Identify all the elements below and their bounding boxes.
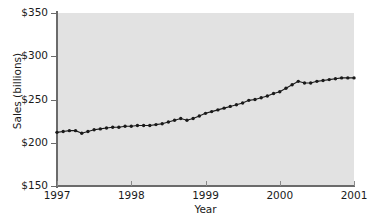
y-tick-label: $250 (2, 94, 48, 105)
x-tick (206, 181, 207, 186)
x-tick-label: 1997 (37, 189, 77, 201)
x-tick-label: 2001 (334, 189, 374, 201)
y-tick (51, 13, 57, 14)
x-tick (280, 181, 281, 186)
x-tick (131, 181, 132, 186)
y-tick-label: $300 (2, 50, 48, 61)
x-tick (57, 181, 58, 186)
x-tick-label: 2000 (260, 189, 300, 201)
x-tick (354, 181, 355, 186)
x-axis-title: Year (57, 203, 354, 215)
x-tick-label: 1998 (111, 189, 151, 201)
x-tick-label: 1999 (186, 189, 226, 201)
y-axis-title: Sales (billions) (11, 21, 23, 161)
y-tick (51, 100, 57, 101)
y-tick (51, 143, 57, 144)
sales-line-chart: $150$200$250$300$350 1997199819992000200… (0, 0, 375, 222)
plot-area (57, 13, 354, 186)
y-tick (51, 56, 57, 57)
y-tick-label: $200 (2, 137, 48, 148)
y-tick (51, 186, 57, 187)
y-tick-label: $350 (2, 7, 48, 18)
